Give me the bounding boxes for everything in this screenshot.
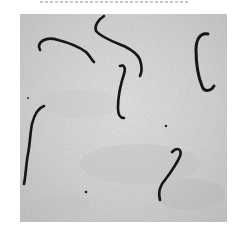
micrograph-image: [20, 14, 227, 222]
cropped-caption-text: [40, 0, 190, 4]
